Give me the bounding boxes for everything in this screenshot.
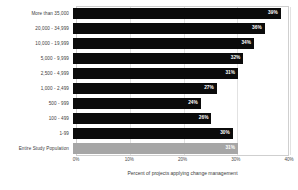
bar-value-label: 30% [220, 131, 233, 136]
category-label: 5,000 - 9,999 [0, 56, 72, 61]
bar-track: 32% [72, 51, 285, 66]
category-label: 20,000 - 34,999 [0, 26, 72, 31]
x-tick-label: 0% [73, 157, 80, 162]
bar: 36% [73, 23, 265, 34]
category-label: Entire Study Population [0, 146, 72, 151]
bar-row: 500 - 99924% [0, 96, 298, 111]
bar-row: 1-9930% [0, 126, 298, 141]
category-label: 1,000 - 2,499 [0, 86, 72, 91]
bar-track: 31% [72, 66, 285, 81]
bar-track: 31% [72, 141, 285, 156]
bar-row: 1,000 - 2,49927% [0, 81, 298, 96]
bar-value-label: 24% [188, 101, 201, 106]
bar-track: 26% [72, 111, 285, 126]
bar: 30% [73, 128, 233, 139]
bar-value-label: 27% [204, 86, 217, 91]
bar: 26% [73, 113, 211, 124]
bar-value-label: 39% [268, 11, 281, 16]
bar: 27% [73, 83, 217, 94]
category-label: 2,500 - 4,999 [0, 71, 72, 76]
bar: 31% [73, 143, 238, 154]
x-tick-label: 30% [231, 157, 240, 162]
bar-chart: More than 35,00039%20,000 - 34,99936%10,… [0, 0, 298, 190]
bar-track: 30% [72, 126, 285, 141]
x-axis: 0%10%20%30%40% [76, 157, 289, 167]
bar-row: 2,500 - 4,99931% [0, 66, 298, 81]
bar: 24% [73, 98, 201, 109]
bar-value-label: 36% [252, 26, 265, 31]
bar-row: 100 - 49926% [0, 111, 298, 126]
x-tick-label: 40% [284, 157, 293, 162]
bar: 32% [73, 53, 243, 64]
category-label: 100 - 499 [0, 116, 72, 121]
bar-track: 36% [72, 21, 285, 36]
bar-value-label: 34% [241, 41, 254, 46]
bar-row: Entire Study Population31% [0, 141, 298, 156]
bar-value-label: 32% [231, 56, 244, 61]
bar-row: 20,000 - 34,99936% [0, 21, 298, 36]
bar-track: 27% [72, 81, 285, 96]
x-tick-label: 10% [125, 157, 134, 162]
category-label: More than 35,000 [0, 11, 72, 16]
bar-row: More than 35,00039% [0, 6, 298, 21]
bar-value-label: 31% [225, 71, 238, 76]
bar-value-label: 26% [199, 116, 212, 121]
x-tick-label: 20% [178, 157, 187, 162]
bar-track: 34% [72, 36, 285, 51]
bar: 34% [73, 38, 254, 49]
x-axis-title: Percent of projects applying change mana… [76, 170, 289, 176]
bar-row: 5,000 - 9,99932% [0, 51, 298, 66]
bar: 31% [73, 68, 238, 79]
bar: 39% [73, 8, 281, 19]
bar-track: 24% [72, 96, 285, 111]
category-label: 500 - 999 [0, 101, 72, 106]
bar-row: 10,000 - 19,99934% [0, 36, 298, 51]
bar-value-label: 31% [225, 146, 238, 151]
bar-rows: More than 35,00039%20,000 - 34,99936%10,… [0, 6, 298, 156]
bar-track: 39% [72, 6, 285, 21]
category-label: 10,000 - 19,999 [0, 41, 72, 46]
category-label: 1-99 [0, 131, 72, 136]
